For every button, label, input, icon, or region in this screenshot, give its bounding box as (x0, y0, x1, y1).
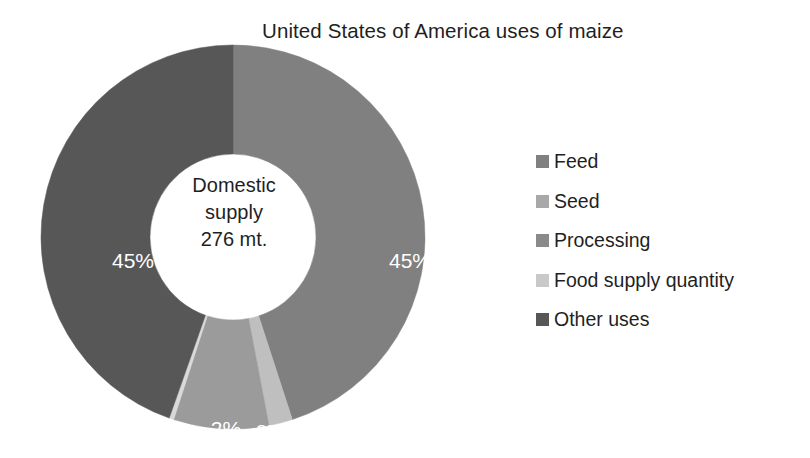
legend-item-other-uses[interactable]: Other uses (536, 300, 786, 340)
legend-item-processing[interactable]: Processing (536, 221, 786, 261)
slice-label-seed: 2% (202, 417, 250, 441)
legend-item-label: Seed (554, 190, 600, 213)
slice-label-food-supply-quantity: 0% (286, 417, 334, 441)
legend-item-seed[interactable]: Seed (536, 182, 786, 222)
chart-title: United States of America uses of maize (262, 18, 782, 44)
legend-item-feed[interactable]: Feed (536, 142, 786, 182)
center-caption-line-2: supply (152, 199, 316, 226)
legend-swatch-icon (536, 274, 549, 287)
legend-swatch-icon (536, 234, 549, 247)
legend-item-label: Processing (554, 229, 650, 252)
center-caption-line-3: 276 mt. (152, 226, 316, 253)
legend-swatch-icon (536, 155, 549, 168)
donut-chart-figure: United States of America uses of maize 4… (0, 0, 810, 458)
legend-item-label: Food supply quantity (554, 269, 734, 292)
center-caption-line-1: Domestic (152, 172, 316, 199)
slice-label-feed: 45% (375, 249, 445, 273)
legend-swatch-icon (536, 313, 549, 326)
legend-item-label: Feed (554, 150, 598, 173)
chart-legend: FeedSeedProcessingFood supply quantityOt… (536, 142, 786, 340)
legend-swatch-icon (536, 195, 549, 208)
donut-center-caption: Domestic supply 276 mt. (152, 172, 316, 253)
legend-item-label: Other uses (554, 308, 649, 331)
legend-item-food-supply-quantity[interactable]: Food supply quantity (536, 261, 786, 301)
